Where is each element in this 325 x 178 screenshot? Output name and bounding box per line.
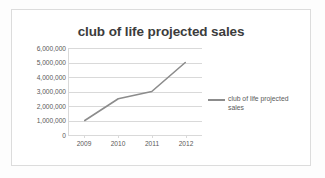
- x-axis-tickmarks: [68, 135, 202, 139]
- y-tick-label: 0: [12, 132, 66, 139]
- y-tick-label: 1,000,000: [12, 117, 66, 124]
- x-tick-label: 2012: [166, 140, 206, 148]
- chart-title: club of life projected sales: [12, 24, 310, 39]
- chart-frame[interactable]: club of life projected sales 6,000,000 5…: [11, 9, 311, 166]
- x-axis-labels: 2009 2010 2011 2012: [68, 140, 202, 152]
- x-tickmark: [186, 135, 187, 138]
- plot-area[interactable]: [68, 48, 202, 135]
- y-tick-label: 3,000,000: [12, 88, 66, 95]
- x-tickmark: [118, 135, 119, 138]
- y-tick-label: 5,000,000: [12, 59, 66, 66]
- chart-legend[interactable]: club of life projected sales: [208, 94, 308, 112]
- chart-page: club of life projected sales 6,000,000 5…: [0, 0, 325, 178]
- y-axis-labels: 6,000,000 5,000,000 4,000,000 3,000,000 …: [12, 48, 66, 135]
- legend-item[interactable]: club of life projected sales: [208, 94, 308, 112]
- x-tickmark: [84, 135, 85, 138]
- y-tick-label: 4,000,000: [12, 74, 66, 81]
- series-line-club-of-life-projected-sales: [68, 48, 202, 135]
- legend-item-label: club of life projected sales: [228, 94, 306, 112]
- legend-label-line1: club of life projected: [228, 95, 288, 102]
- legend-line-marker-icon: [208, 99, 225, 101]
- y-tick-label: 2,000,000: [12, 103, 66, 110]
- y-tick-label: 6,000,000: [12, 45, 66, 52]
- x-tickmark: [152, 135, 153, 138]
- legend-label-line2: sales: [228, 104, 244, 111]
